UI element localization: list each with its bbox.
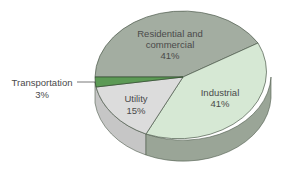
label-industrial-value: 41% xyxy=(210,98,230,109)
pie-chart-svg: Residential and commercial 41% Industria… xyxy=(0,0,282,171)
pie-chart: Residential and commercial 41% Industria… xyxy=(0,0,282,171)
label-residential-line1: Residential and xyxy=(137,28,203,39)
label-industrial-name: Industrial xyxy=(201,87,240,98)
label-transportation-value: 3% xyxy=(35,89,49,100)
label-transportation-name: Transportation xyxy=(12,77,73,88)
label-utility-name: Utility xyxy=(124,93,147,104)
label-residential-line2: commercial xyxy=(146,39,195,50)
label-residential-value: 41% xyxy=(160,50,180,61)
label-utility-value: 15% xyxy=(126,105,146,116)
